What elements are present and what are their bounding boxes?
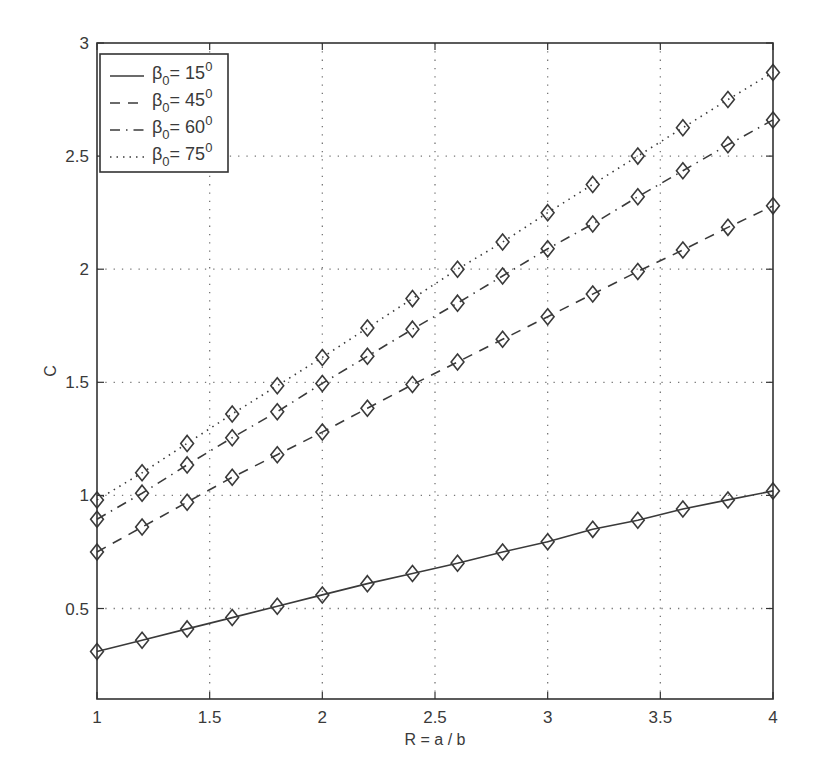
x-axis-label: R = a / b <box>405 731 466 748</box>
diamond-marker <box>631 263 644 279</box>
diamond-marker <box>496 234 509 250</box>
diamond-marker <box>406 291 419 307</box>
series-dashdot <box>91 112 780 527</box>
y-tick-label: 1 <box>80 486 89 505</box>
legend: β0= 150β0= 450β0= 600β0= 750 <box>100 54 228 172</box>
diamond-marker <box>406 377 419 393</box>
line-chart: 11.522.533.54 0.511.522.53 R = a / b C β… <box>0 0 817 779</box>
diamond-marker <box>361 348 374 364</box>
diamond-marker <box>226 469 239 485</box>
diamond-marker <box>271 378 284 394</box>
diamond-marker <box>136 519 149 535</box>
series-dashed <box>91 198 780 560</box>
diamond-marker <box>181 494 194 510</box>
diamond-marker <box>676 120 689 136</box>
x-tick-label: 1 <box>92 708 101 727</box>
diamond-marker <box>586 176 599 192</box>
diamond-marker <box>631 148 644 164</box>
diamond-marker <box>676 242 689 258</box>
diamond-marker <box>586 216 599 232</box>
diamond-marker <box>406 321 419 337</box>
y-axis-tick-labels: 0.511.522.53 <box>65 34 89 619</box>
diamond-marker <box>226 406 239 422</box>
series-line <box>97 120 773 519</box>
y-tick-label: 0.5 <box>65 600 89 619</box>
y-tick-label: 1.5 <box>65 373 89 392</box>
y-tick-label: 2 <box>80 260 89 279</box>
y-tick-label: 3 <box>80 34 89 53</box>
series-line <box>97 491 773 652</box>
diamond-marker <box>451 354 464 370</box>
x-axis-tick-labels: 11.522.533.54 <box>92 708 777 727</box>
diamond-marker <box>631 189 644 205</box>
diamond-marker <box>271 404 284 420</box>
y-tick-label: 2.5 <box>65 147 89 166</box>
diamond-marker <box>361 320 374 336</box>
diamond-marker <box>181 457 194 473</box>
diamond-marker <box>451 295 464 311</box>
diamond-marker <box>722 92 735 108</box>
diamond-marker <box>451 261 464 277</box>
x-tick-label: 2 <box>318 708 327 727</box>
y-axis-label: C <box>42 365 59 377</box>
diamond-marker <box>181 435 194 451</box>
x-tick-label: 1.5 <box>198 708 222 727</box>
x-tick-label: 3.5 <box>649 708 673 727</box>
x-tick-label: 2.5 <box>423 708 447 727</box>
x-tick-label: 4 <box>768 708 777 727</box>
x-tick-label: 3 <box>543 708 552 727</box>
